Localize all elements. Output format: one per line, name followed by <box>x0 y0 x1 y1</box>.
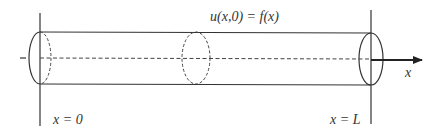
rod-diagram: u(x,0) = f(x) x x = 0 x = L <box>0 0 443 137</box>
central-axis-dashed <box>40 58 371 59</box>
rod-top-edge <box>40 32 371 33</box>
rod-bottom-edge <box>40 84 371 85</box>
x-axis-label: x <box>405 66 411 80</box>
initial-condition-label: u(x,0) = f(x) <box>210 10 279 24</box>
left-boundary-label: x = 0 <box>53 113 83 127</box>
left-end-ellipse-front <box>29 32 40 84</box>
right-boundary-label: x = L <box>330 113 360 127</box>
